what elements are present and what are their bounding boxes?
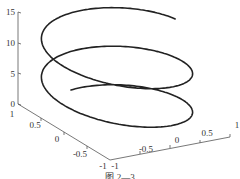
z-tick-15: 15 [6, 7, 16, 17]
z-axis: 15 10 5 0 [6, 7, 21, 109]
y-axis: 1 0.5 0 -0.5 -1 [10, 104, 110, 171]
y-tick-1: 1 [10, 109, 15, 119]
helix-3d-plot: 15 10 5 0 1 0.5 0 -0.5 -1 -1 -0.5 0 [0, 0, 240, 179]
z-tick-10: 10 [6, 38, 16, 48]
x-tick-0.5: 0.5 [201, 128, 213, 138]
x-tick-0: 0 [175, 135, 180, 145]
x-tick-1: 1 [235, 120, 240, 130]
x-tick--0.5: -0.5 [139, 144, 154, 154]
z-tick-5: 5 [11, 69, 16, 79]
y-tick-0: 0 [55, 134, 60, 144]
helix-curve [41, 8, 192, 128]
z-tick-0: 0 [11, 99, 16, 109]
figure-caption: 图 2—3 [0, 170, 240, 179]
y-tick-0.5: 0.5 [29, 120, 41, 130]
y-tick--0.5: -0.5 [73, 149, 88, 159]
x-axis: -1 -0.5 0 0.5 1 [110, 120, 239, 171]
